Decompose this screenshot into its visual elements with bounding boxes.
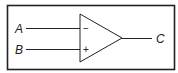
input-b-label: B bbox=[15, 43, 23, 57]
input-a-label: A bbox=[14, 22, 23, 36]
output-c-label: C bbox=[156, 32, 165, 46]
inverting-terminal: − bbox=[83, 23, 89, 34]
frame-border bbox=[8, 6, 175, 70]
op-amp-diagram: A B − + C bbox=[0, 0, 178, 73]
noninverting-terminal: + bbox=[83, 44, 89, 55]
